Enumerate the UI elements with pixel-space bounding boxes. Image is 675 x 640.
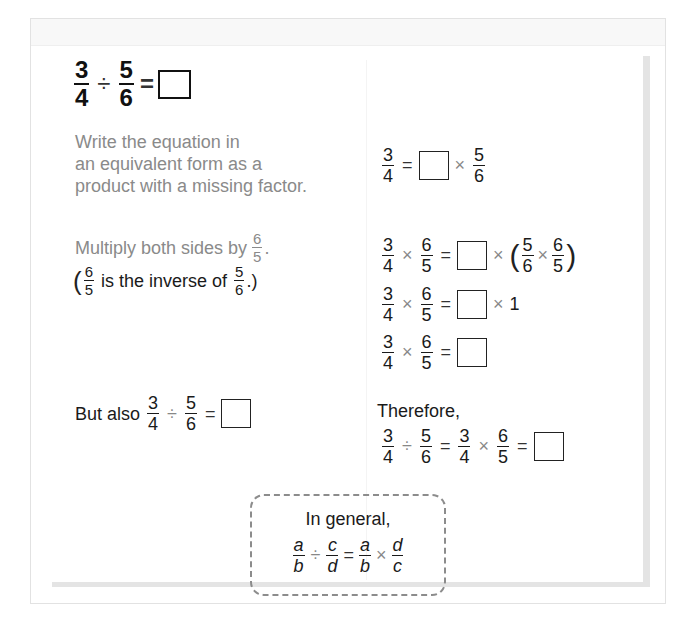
- step2-equation-3: 34 × 65 =: [380, 333, 487, 372]
- step2-explanation-line1: Multiply both sides by 65 .: [75, 231, 269, 264]
- fraction: 34: [74, 58, 89, 110]
- general-rule-box: In general, ab ÷ cd = ab × dc: [250, 494, 446, 596]
- missing-value-box: [457, 338, 487, 367]
- step2-equation-2: 34 × 65 = × 1: [380, 285, 520, 324]
- right-shadow-strip: [643, 56, 650, 586]
- step3-but-also: But also 34 ÷ 56 =: [75, 394, 251, 433]
- general-formula: ab ÷ cd = ab × dc: [252, 536, 444, 575]
- therefore-equation: 34 ÷ 56 = 34 × 65 =: [380, 427, 564, 466]
- divide-sign: ÷: [97, 70, 110, 98]
- missing-value-box: [221, 399, 251, 428]
- fraction: 56: [119, 58, 134, 110]
- top-shade: [31, 19, 665, 46]
- equals-sign: =: [140, 70, 154, 98]
- therefore-label: Therefore,: [377, 400, 460, 422]
- missing-value-box: [419, 151, 449, 180]
- step1-explanation: Write the equation in an equivalent form…: [75, 131, 307, 197]
- missing-value-box: [158, 70, 191, 99]
- missing-value-box: [534, 432, 564, 461]
- general-label: In general,: [252, 509, 444, 530]
- step2-explanation-line2: ( 65 is the inverse of 56 .): [73, 264, 257, 297]
- title-equation: 34 ÷ 56 =: [72, 58, 191, 110]
- step2-equation-1: 34 × 65 = × ( 56 × 65 ): [380, 236, 576, 275]
- missing-value-box: [457, 241, 487, 270]
- step1-equation: 34 = × 56: [380, 146, 487, 185]
- missing-value-box: [457, 290, 487, 319]
